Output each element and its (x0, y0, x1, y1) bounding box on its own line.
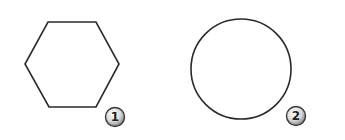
number-badge-2: 2 (287, 107, 306, 126)
badge-label: 2 (292, 109, 300, 123)
number-badge-1: 1 (106, 108, 125, 127)
hexagon-shape (25, 22, 119, 107)
badge-label: 1 (111, 110, 119, 124)
diagram-canvas: 1 2 (0, 0, 345, 140)
circle-shape (191, 19, 291, 119)
